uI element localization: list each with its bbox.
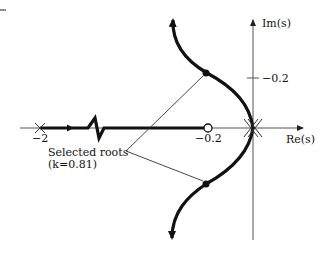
real-axis-locus <box>40 118 205 138</box>
imag-axis-label: Im(s) <box>262 17 291 30</box>
root-locus-plot: −2 −0.2 −0.2 Im(s) Re(s) Selected roots … <box>0 0 325 258</box>
tick-label-minus-0-2: −0.2 <box>195 132 222 145</box>
root-locus-diagram: −2 −0.2 −0.2 Im(s) Re(s) Selected roots … <box>0 0 325 258</box>
direction-arrow-icon <box>67 125 74 132</box>
selected-root-upper <box>203 70 210 77</box>
annotation-gain: (k=0.81) <box>48 158 97 171</box>
zero-marker-icon <box>204 124 212 132</box>
tick-label-minus-2: −2 <box>32 132 48 145</box>
imag-tick-label: −0.2 <box>262 72 289 85</box>
upper-branch <box>173 20 253 128</box>
selected-root-lower <box>203 181 210 188</box>
real-axis-label: Re(s) <box>286 133 315 146</box>
